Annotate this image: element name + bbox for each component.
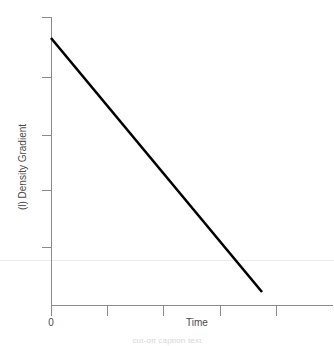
y-axis-label: (l) Density Gradient <box>16 0 30 107</box>
x-axis-origin-tick-label: 0 <box>43 317 59 329</box>
x-axis-label: Time <box>177 317 217 329</box>
cut-off-caption: cut-off caption text <box>0 339 334 346</box>
data-series-line <box>0 0 334 346</box>
cut-off-caption-text: cut-off caption text <box>0 339 334 345</box>
chart-figure: (l) Density Gradient Time 0 cut-off capt… <box>0 0 334 346</box>
y-axis-label-text: (l) Density Gradient <box>16 107 30 227</box>
